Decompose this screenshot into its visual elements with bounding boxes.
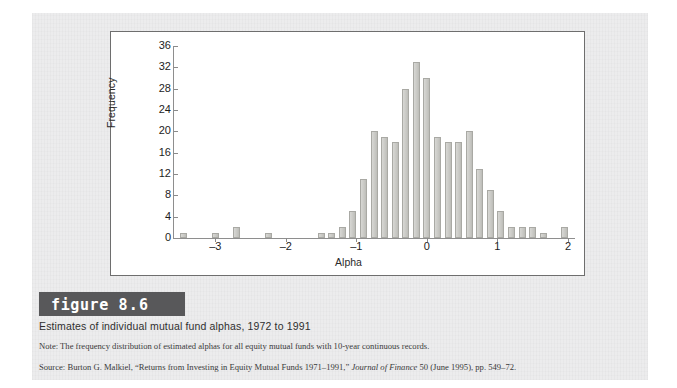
x-tick-mark bbox=[286, 238, 287, 242]
histogram-bar bbox=[371, 131, 378, 238]
y-tick-label: 16 bbox=[125, 147, 171, 158]
figure-banner-number: 8.6 bbox=[118, 296, 149, 314]
x-axis-label: Alpha bbox=[111, 256, 586, 268]
y-tick-label: 0 bbox=[125, 232, 171, 243]
histogram-bar bbox=[233, 227, 240, 238]
histogram-bar bbox=[497, 211, 504, 238]
x-axis-line bbox=[173, 238, 575, 239]
histogram-bar bbox=[265, 233, 272, 238]
figure-page: Frequency 04812162024283236 –3–2–1012 Al… bbox=[0, 0, 677, 388]
y-tick-label: 24 bbox=[125, 104, 171, 115]
histogram-bar bbox=[434, 137, 441, 238]
figure-banner-word: figure bbox=[51, 296, 109, 314]
histogram-bar bbox=[455, 142, 462, 238]
y-tick-label: 36 bbox=[125, 40, 171, 51]
y-tick-label: 32 bbox=[125, 61, 171, 72]
figure-banner-text: figure 8.6 bbox=[51, 296, 149, 314]
y-tick-label: 8 bbox=[125, 189, 171, 200]
histogram-bar bbox=[349, 211, 356, 238]
histogram-bar bbox=[413, 62, 420, 238]
figure-banner: figure 8.6 bbox=[39, 292, 185, 316]
figure-source: Source: Burton G. Malkiel, “Returns from… bbox=[39, 362, 516, 372]
histogram-bar bbox=[519, 227, 526, 238]
x-tick-mark bbox=[568, 238, 569, 242]
histogram-bar bbox=[508, 227, 515, 238]
histogram-bar bbox=[328, 233, 335, 238]
x-tick-mark bbox=[215, 238, 216, 242]
figure-source-prefix: Source: Burton G. Malkiel, “Returns from… bbox=[39, 362, 351, 372]
histogram-bar bbox=[476, 169, 483, 238]
histogram-bar bbox=[529, 227, 536, 238]
histogram-bar bbox=[487, 190, 494, 238]
histogram-bar bbox=[540, 233, 547, 238]
plot-area: Frequency 04812162024283236 –3–2–1012 Al… bbox=[111, 32, 586, 277]
histogram-bar bbox=[180, 233, 187, 238]
y-axis-line bbox=[173, 46, 174, 239]
x-tick-mark bbox=[356, 238, 357, 242]
histogram-bar bbox=[561, 227, 568, 238]
histogram-bar bbox=[339, 227, 346, 238]
histogram-bar bbox=[392, 142, 399, 238]
chart-panel: Frequency 04812162024283236 –3–2–1012 Al… bbox=[110, 31, 585, 276]
y-tick-label: 4 bbox=[125, 211, 171, 222]
histogram-bar bbox=[445, 142, 452, 238]
histogram-bar bbox=[381, 137, 388, 238]
figure-source-journal: Journal of Finance bbox=[351, 362, 417, 372]
y-axis-label: Frequency bbox=[105, 77, 117, 128]
histogram-bar bbox=[402, 89, 409, 238]
histogram-bar bbox=[212, 233, 219, 238]
x-tick-mark bbox=[497, 238, 498, 242]
figure-title: Estimates of individual mutual fund alph… bbox=[39, 320, 311, 332]
histogram-bar bbox=[423, 78, 430, 238]
y-tick-label: 12 bbox=[125, 168, 171, 179]
histogram-bar bbox=[466, 131, 473, 238]
y-axis-ticks: 04812162024283236 bbox=[125, 32, 171, 277]
y-tick-label: 20 bbox=[125, 125, 171, 136]
histogram-bar bbox=[318, 233, 325, 238]
figure-source-suffix: 50 (June 1995), pp. 549–72. bbox=[417, 362, 516, 372]
histogram-bar bbox=[360, 179, 367, 238]
x-tick-mark bbox=[427, 238, 428, 242]
figure-note: Note: The frequency distribution of esti… bbox=[39, 341, 429, 351]
y-tick-label: 28 bbox=[125, 83, 171, 94]
